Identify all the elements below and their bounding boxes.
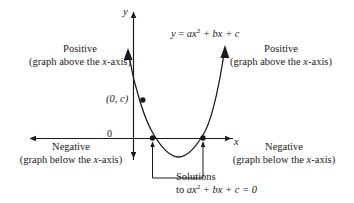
annotation-negative-left-line2: (graph below the x-axis) [6, 153, 136, 166]
equation-equals: = [176, 28, 187, 39]
equation-term-bx: + bx [200, 28, 222, 39]
annotation-positive-right-line2: (graph above the x-axis) [212, 55, 350, 68]
root-left-point [150, 135, 155, 140]
equation-term-c: + c [223, 28, 240, 39]
nl-prefix: (graph below the [20, 154, 94, 165]
annotation-positive-right-line1: Positive [212, 42, 350, 55]
pl-prefix: (graph above the [29, 56, 102, 67]
pr-suffix: -axis) [308, 56, 332, 67]
y-axis-label: y [123, 6, 128, 19]
origin-label: 0 [107, 128, 112, 141]
nr-prefix: (graph below the [233, 154, 307, 165]
nl-suffix: -axis) [98, 154, 122, 165]
quadratic-sign-chart-figure: y x 0 y = ax2 + bx + c (0, c) Positive (… [0, 0, 354, 203]
annotation-positive-left: Positive (graph above the x-axis) [18, 42, 142, 68]
sol-suffix: + c = 0 [222, 184, 257, 195]
annotation-positive-left-line2: (graph above the x-axis) [18, 55, 142, 68]
annotation-negative-right-line2: (graph below the x-axis) [216, 153, 352, 166]
annotation-positive-right: Positive (graph above the x-axis) [212, 42, 350, 68]
annotation-negative-left: Negative (graph below the x-axis) [6, 140, 136, 166]
annotation-solutions-line2: to ax2 + bx + c = 0 [176, 183, 257, 196]
nr-suffix: -axis) [311, 154, 335, 165]
root-right-point [200, 135, 205, 140]
annotation-negative-right-line1: Negative [216, 140, 352, 153]
annotation-solutions-line1: Solutions [176, 170, 257, 183]
annotation-solutions: Solutions to ax2 + bx + c = 0 [176, 170, 257, 196]
annotation-negative-left-line1: Negative [6, 140, 136, 153]
sol-mid: + bx [200, 184, 222, 195]
pl-suffix: -axis) [107, 56, 131, 67]
annotation-positive-left-line1: Positive [18, 42, 142, 55]
annotation-negative-right: Negative (graph below the x-axis) [216, 140, 352, 166]
curve-equation-label: y = ax2 + bx + c [171, 28, 240, 41]
y-intercept-label: (0, c) [106, 93, 128, 106]
parabola-curve [129, 54, 224, 157]
pr-prefix: (graph above the [230, 56, 303, 67]
y-intercept-text: (0, c) [106, 93, 128, 104]
sol-prefix: to [176, 184, 187, 195]
y-intercept-point [140, 97, 145, 102]
